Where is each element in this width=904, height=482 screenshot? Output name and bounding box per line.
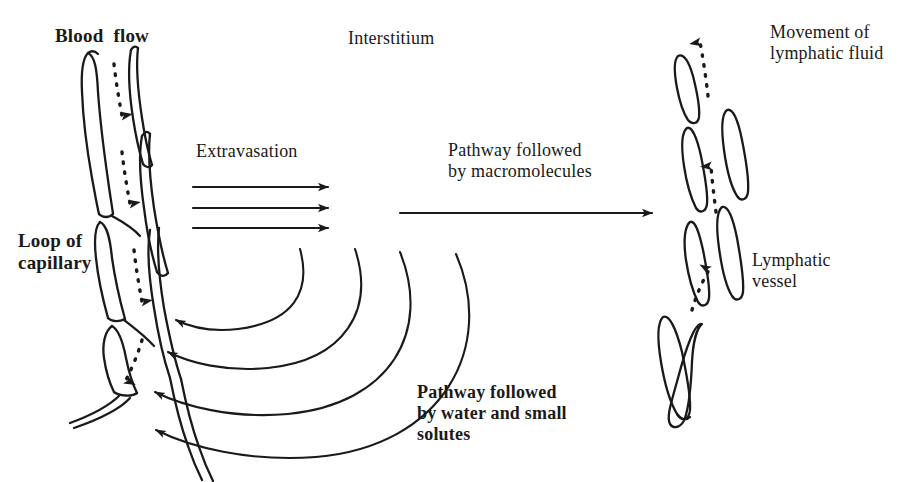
- diagram-canvas: Blood flow Interstitium Extravasation Pa…: [0, 0, 904, 482]
- label-loop-of-capillary: Loop of capillary: [18, 230, 92, 274]
- water-solute-arc-2: [168, 249, 361, 369]
- label-blood-flow: Blood flow: [55, 25, 149, 47]
- lymphatic-flow-arrow-2: [711, 166, 716, 212]
- blood-flow-arrow-2: [122, 152, 130, 204]
- water-solute-arc-1: [176, 249, 303, 330]
- label-pathway-macromolecules: Pathway followed by macromolecules: [448, 140, 592, 182]
- water-solute-arc-3: [155, 252, 411, 415]
- capillary-junction-fold-2: [124, 320, 154, 346]
- blood-flow-arrow-3: [134, 250, 142, 302]
- lymphatic-flap-right-3: [669, 324, 702, 427]
- blood-flow-arrow-1: [114, 64, 122, 116]
- capillary-tail-right: [170, 378, 202, 480]
- capillary-wall-left-cell-3: [103, 326, 114, 392]
- lymphatic-flap-right-1: [722, 110, 748, 200]
- label-lymphatic-vessel: Lymphatic vessel: [752, 250, 831, 292]
- capillary-junction-fold: [112, 216, 140, 236]
- lymphatic-flow-arrow-1: [700, 42, 708, 96]
- label-pathway-water-solutes: Pathway followed by water and small solu…: [417, 382, 567, 445]
- lymphatic-flap-left-1: [675, 55, 699, 123]
- blood-flow-arrow-4: [126, 340, 142, 380]
- label-movement-of-lymphatic-fluid: Movement of lymphatic fluid: [770, 22, 883, 64]
- lymphatic-flap-left-4: [659, 317, 691, 419]
- lymphatic-flap-left-3: [685, 222, 710, 306]
- label-interstitium: Interstitium: [348, 28, 434, 49]
- lymphatic-flap-left-2: [682, 128, 707, 212]
- capillary-wall-left-cell-2: [95, 222, 108, 318]
- lymphatic-flap-right-2: [717, 207, 743, 300]
- lymphatic-vessel-structure: [659, 55, 749, 427]
- extravasation-arrow-group: [193, 187, 328, 228]
- label-extravasation: Extravasation: [196, 141, 298, 162]
